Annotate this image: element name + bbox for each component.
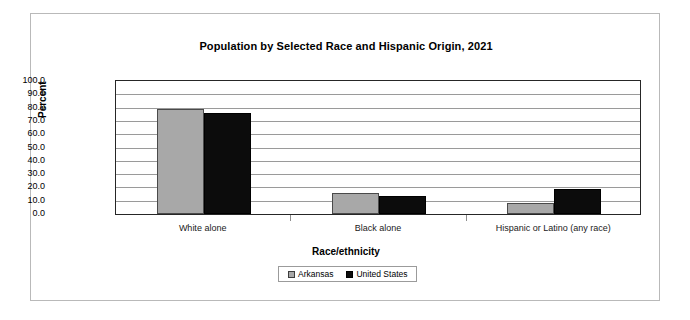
y-axis-tick-label: 40.0 xyxy=(0,156,45,165)
legend-item-arkansas: Arkansas xyxy=(288,269,333,279)
x-axis-title: Race/ethnicity xyxy=(31,246,661,257)
x-axis-category-label: Hispanic or Latino (any race) xyxy=(466,223,641,233)
legend-swatch-icon xyxy=(346,271,353,278)
y-axis-tick-label: 100.0 xyxy=(0,76,45,85)
legend-item-united-states: United States xyxy=(346,269,407,279)
x-axis-tick xyxy=(466,215,467,221)
gridline xyxy=(116,94,640,95)
y-axis-tick-label: 50.0 xyxy=(0,143,45,152)
bar-united-states xyxy=(554,189,601,214)
chart-frame: Population by Selected Race and Hispanic… xyxy=(30,13,660,301)
legend-label: United States xyxy=(356,269,407,279)
y-axis-tick-label: 60.0 xyxy=(0,129,45,138)
bar-united-states xyxy=(204,113,251,214)
bar-united-states xyxy=(379,196,426,214)
chart-title: Population by Selected Race and Hispanic… xyxy=(31,40,661,52)
chart-legend: ArkansasUnited States xyxy=(278,266,417,282)
y-axis-title: Percent xyxy=(37,81,48,118)
plot-area xyxy=(115,80,641,215)
y-axis-tick-label: 80.0 xyxy=(0,103,45,112)
bar-arkansas xyxy=(507,203,554,214)
legend-label: Arkansas xyxy=(298,269,333,279)
x-axis-category-label: Black alone xyxy=(290,223,465,233)
legend-swatch-icon xyxy=(288,271,295,278)
y-axis-tick-label: 90.0 xyxy=(0,89,45,98)
x-axis-tick xyxy=(290,215,291,221)
bar-arkansas xyxy=(157,109,204,214)
y-axis-tick-label: 10.0 xyxy=(0,196,45,205)
y-axis-tick-label: 70.0 xyxy=(0,116,45,125)
y-axis-tick-label: 0.0 xyxy=(0,209,45,218)
y-axis-tick-label: 20.0 xyxy=(0,182,45,191)
bar-arkansas xyxy=(332,193,379,214)
x-axis-category-label: White alone xyxy=(115,223,290,233)
y-axis-tick-label: 30.0 xyxy=(0,169,45,178)
